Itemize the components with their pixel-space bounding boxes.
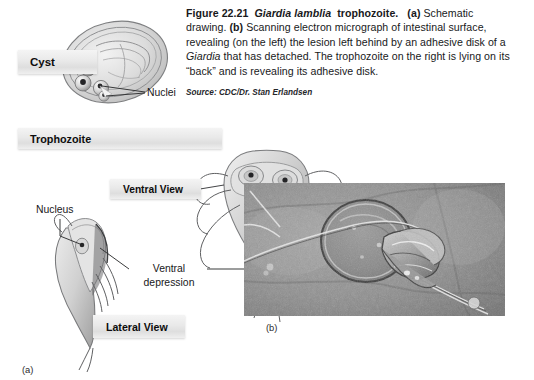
nuclei-label: Nuclei	[147, 86, 176, 100]
caption-part-b-tail: that has detached. The trophozoite on th…	[186, 50, 510, 76]
label-bar-ventral-view: Ventral View	[110, 179, 201, 199]
figure-source-credit: Source: CDC/Dr. Stan Erlandsen	[186, 88, 312, 97]
figure-title-tail: trophozoite.	[337, 7, 398, 19]
figure-number: Figure 22.21	[186, 7, 248, 19]
caption-part-b-italic: Giardia	[186, 50, 221, 62]
caption-part-a-marker: (a)	[407, 7, 420, 19]
ventral-view-label-text: Ventral View	[123, 184, 183, 195]
figure-caption: Figure 22.21 Giardia lamblia trophozoite…	[186, 6, 516, 78]
panel-a-letter: (a)	[22, 364, 33, 375]
panel-b-letter: (b)	[266, 322, 277, 333]
nucleus-label: Nucleus	[36, 203, 74, 217]
lateral-view-label-text: Lateral View	[106, 321, 168, 333]
trophozoite-label-text: Trophozoite	[30, 133, 91, 145]
cyst-label-text: Cyst	[30, 56, 55, 68]
ventral-depression-label: Ventral depression	[133, 262, 205, 289]
label-bar-lateral-view: Lateral View	[93, 315, 185, 338]
figure-species-name: Giardia lamblia	[254, 7, 331, 19]
sem-micrograph-photo	[244, 183, 505, 316]
label-bar-trophozoite: Trophozoite	[18, 128, 222, 149]
figure-page: Figure 22.21 Giardia lamblia trophozoite…	[0, 0, 534, 380]
nucleus-leader-line	[60, 219, 80, 244]
lateral-trophozoite-drawing	[54, 214, 118, 372]
label-bar-cyst: Cyst	[18, 50, 97, 74]
caption-part-b-marker: (b)	[229, 21, 243, 33]
nuclei-leader-lines	[102, 86, 145, 96]
